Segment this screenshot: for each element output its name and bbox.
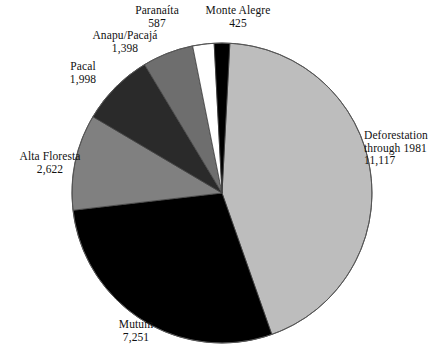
slice-label-value: 2,622 [8,163,92,176]
slice-label-value: 587 [121,17,193,30]
pie-chart-figure: Paranaíta 587 Monte Alegre 425 Anapu/Pac… [0,0,437,361]
slice-label-name: Paranaíta [121,4,193,17]
slice-label-name: Mutum [107,318,165,331]
slice-label-alta-floresta: Alta Floresta 2,622 [8,150,92,175]
slice-label-value: 1,998 [55,73,111,86]
slice-label-name: Monte Alegre [195,4,281,17]
slice-label-pacal: Pacal 1,998 [55,60,111,85]
slice-label-paranaita: Paranaíta 587 [121,4,193,29]
slice-label-anapu-pacaja: Anapu/Pacajá 1,398 [85,29,165,54]
slice-label-monte-alegre: Monte Alegre 425 [195,4,281,29]
slice-label-value: 11,117 [364,154,437,167]
pie-slice-group [72,43,372,343]
slice-label-mutum: Mutum 7,251 [107,318,165,343]
slice-label-name: Alta Floresta [8,150,92,163]
slice-label-deforestation-through-1981: Deforestation through 1981 11,117 [364,129,437,167]
slice-label-value: 425 [195,17,281,30]
slice-label-name: Pacal [55,60,111,73]
slice-label-value: 1,398 [85,42,165,55]
slice-label-name-line2: through 1981 [364,142,437,155]
slice-label-value: 7,251 [107,331,165,344]
pie-chart-canvas [0,0,437,361]
slice-label-name: Anapu/Pacajá [85,29,165,42]
slice-label-name-line1: Deforestation [364,129,437,142]
